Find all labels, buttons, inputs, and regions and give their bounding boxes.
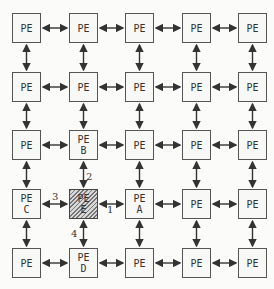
pe-node: PE (182, 130, 211, 160)
pe-id: C (23, 204, 29, 215)
pe-label: PE (246, 258, 258, 269)
pe-label: PE (133, 82, 145, 93)
pe-label: PE (77, 252, 89, 263)
pe-node: PEC (12, 189, 41, 219)
pe-label: PE (133, 23, 145, 34)
pe-label: PE (246, 82, 258, 93)
pe-label: PE (20, 23, 32, 34)
pe-label: PE (246, 23, 258, 34)
pe-node: PE (12, 248, 41, 278)
pe-node: PE (12, 130, 41, 160)
pe-node: PE (238, 130, 267, 160)
pe-label: PE (190, 82, 202, 93)
pe-id: A (136, 204, 142, 215)
pe-node: PE (125, 248, 154, 278)
link-label-east: 1 (107, 204, 113, 215)
pe-label: PE (77, 82, 89, 93)
pe-id: E (80, 204, 86, 215)
pe-label: PE (20, 193, 32, 204)
pe-node: PE (69, 72, 98, 102)
pe-label: PE (20, 82, 32, 93)
pe-node: PE (125, 130, 154, 160)
pe-label: PE (133, 193, 145, 204)
pe-node: PE (238, 13, 267, 43)
pe-label: PE (246, 140, 258, 151)
link-label-south: 4 (71, 228, 77, 239)
pe-label: PE (190, 140, 202, 151)
pe-node: PEA (125, 189, 154, 219)
pe-label: PE (77, 193, 89, 204)
pe-label: PE (77, 23, 89, 34)
pe-label: PE (190, 23, 202, 34)
pe-node: PE (182, 248, 211, 278)
pe-label: PE (20, 140, 32, 151)
pe-label: PE (20, 258, 32, 269)
pe-node: PEB (69, 130, 98, 160)
pe-node: PE (182, 72, 211, 102)
pe-label: PE (133, 140, 145, 151)
pe-node: PE (69, 13, 98, 43)
pe-label: PE (77, 134, 89, 145)
pe-node: PE (238, 248, 267, 278)
pe-node: PE (238, 189, 267, 219)
pe-node: PE (238, 72, 267, 102)
pe-node: PE (12, 13, 41, 43)
pe-id: D (80, 263, 86, 274)
pe-node: PE (182, 13, 211, 43)
pe-node: PE (125, 72, 154, 102)
pe-node: PE (12, 72, 41, 102)
pe-node: PE (125, 13, 154, 43)
link-label-north: 2 (86, 171, 92, 182)
pe-node: PE (182, 189, 211, 219)
pe-node: PEE (69, 189, 98, 219)
pe-label: PE (133, 258, 145, 269)
pe-label: PE (190, 258, 202, 269)
pe-label: PE (246, 199, 258, 210)
pe-id: B (80, 145, 86, 156)
pe-label: PE (190, 199, 202, 210)
pe-node: PED (69, 248, 98, 278)
link-label-west: 3 (52, 191, 58, 202)
